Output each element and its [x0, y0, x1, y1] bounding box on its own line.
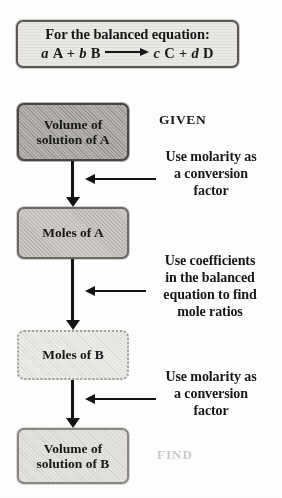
- annotation-molarity-conversion-2: Use molarity as a conversion factor: [148, 368, 274, 419]
- step-label-line1: Moles of A: [42, 225, 104, 240]
- step-box-moles-b: Moles of B: [17, 330, 129, 380]
- annotation-line3: factor: [148, 182, 274, 199]
- flow-arrow-down-icon-3: [71, 380, 74, 419]
- plus-sign-1: +: [67, 45, 76, 61]
- coefficient-a: a: [41, 45, 49, 61]
- annotation-line1: Use molarity as: [148, 368, 274, 385]
- step-box-volume-solution-b: Volume of solution of B: [17, 428, 129, 484]
- step-label-line1: Moles of B: [42, 347, 104, 362]
- balanced-equation-box: For the balanced equation: a A + b Bc C …: [16, 20, 239, 68]
- step-box-moles-a: Moles of A: [17, 207, 129, 259]
- annotation-arrow-left-icon-1: [94, 178, 156, 180]
- annotation-coefficients-mole-ratio: Use coefficients in the balanced equatio…: [143, 252, 277, 320]
- species-a: A: [53, 45, 63, 61]
- annotation-molarity-conversion-1: Use molarity as a conversion factor: [148, 148, 274, 199]
- find-label: FIND: [157, 447, 193, 463]
- annotation-line2: a conversion: [148, 165, 274, 182]
- coefficient-d: d: [192, 45, 200, 61]
- annotation-line2: in the balanced: [143, 269, 277, 286]
- species-d: D: [203, 45, 214, 61]
- annotation-line1: Use molarity as: [148, 148, 274, 165]
- coefficient-c: c: [154, 45, 161, 61]
- annotation-line3: equation to find: [143, 286, 277, 303]
- coefficient-b: b: [79, 45, 87, 61]
- annotation-line2: a conversion: [148, 385, 274, 402]
- balanced-equation-heading: For the balanced equation:: [45, 26, 209, 42]
- step-label-line2: solution of B: [37, 456, 110, 471]
- given-label: GIVEN: [159, 112, 206, 128]
- step-label-line1: Volume of: [44, 117, 102, 132]
- flow-arrow-down-icon-2: [71, 259, 74, 321]
- flow-arrow-down-icon-1: [71, 161, 74, 198]
- step-label-line1: Volume of: [44, 441, 102, 456]
- annotation-line4: mole ratios: [143, 303, 277, 320]
- species-c: C: [164, 45, 175, 61]
- annotation-arrow-left-icon-2: [94, 290, 146, 292]
- annotation-line3: factor: [148, 402, 274, 419]
- step-label-line2: solution of A: [37, 132, 110, 147]
- species-b: B: [91, 45, 101, 61]
- reaction-arrow-icon: [105, 48, 149, 56]
- step-box-volume-solution-a: Volume of solution of A: [17, 103, 129, 161]
- plus-sign-2: +: [179, 45, 188, 61]
- annotation-arrow-left-icon-3: [94, 398, 156, 400]
- balanced-equation-expression: a A + b Bc C + d D: [41, 45, 214, 61]
- annotation-line1: Use coefficients: [143, 252, 277, 269]
